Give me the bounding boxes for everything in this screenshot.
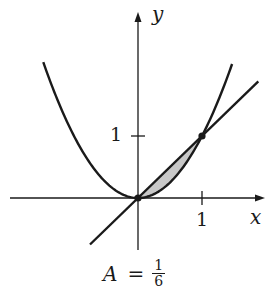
line-curve xyxy=(90,81,258,244)
area-annotation: A = 1 6 xyxy=(103,258,165,289)
equals-sign: = xyxy=(127,262,144,286)
fraction-numerator: 1 xyxy=(152,258,165,274)
x-tick-label: 1 xyxy=(196,208,208,230)
area-fraction: 1 6 xyxy=(152,258,165,289)
y-axis-label: y xyxy=(152,2,163,26)
y-axis-arrow-icon xyxy=(135,12,142,22)
y-axis xyxy=(135,12,142,250)
x-axis-label: x xyxy=(250,205,261,229)
x-axis-arrow-icon xyxy=(255,195,265,202)
intersection-point xyxy=(198,132,205,139)
y-tick-label: 1 xyxy=(110,123,122,145)
area-variable: A xyxy=(103,262,117,286)
fraction-denominator: 6 xyxy=(154,274,163,289)
intersection-point xyxy=(134,194,141,201)
